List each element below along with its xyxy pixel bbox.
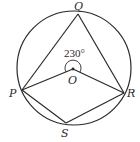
- label-q: Q: [74, 0, 83, 13]
- label-o: O: [68, 74, 77, 87]
- label-r: R: [126, 87, 135, 100]
- label-s: S: [61, 127, 69, 140]
- angle-label: 230°: [64, 47, 85, 59]
- label-p: P: [8, 87, 17, 100]
- circle: [17, 11, 131, 125]
- center-dot: [72, 68, 75, 71]
- circle-diagram: 230° Q P R S O: [0, 0, 140, 142]
- segment-ps: [22, 90, 66, 123]
